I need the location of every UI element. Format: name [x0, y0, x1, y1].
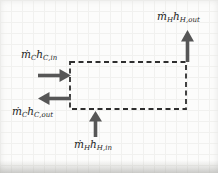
- h-symbol: h: [173, 10, 180, 22]
- cold-out-label: ṁChC,out: [12, 105, 53, 117]
- paper-edge-shadow: [0, 160, 218, 173]
- mdot-symbol: ṁ: [74, 138, 84, 150]
- cold-in-arrow-icon: [38, 68, 71, 83]
- mdot-symbol: ṁ: [21, 48, 31, 60]
- mdot-symbol: ṁ: [12, 105, 22, 117]
- hot-in-label: ṁHhH,in: [74, 138, 112, 150]
- hot-in-arrow-icon: [88, 111, 103, 138]
- cold-out-arrow-icon: [38, 91, 71, 106]
- hot-out-label: ṁHhH,out: [157, 10, 200, 22]
- heat-exchanger-diagram: ṁHhH,out ṁChC,in ṁChC,out ṁHhH,in: [0, 0, 218, 173]
- hot-out-arrow-icon: [180, 30, 195, 63]
- h-subscript: H,in: [97, 144, 112, 152]
- h-subscript: H,out: [180, 16, 200, 24]
- cold-in-label: ṁChC,in: [21, 48, 57, 60]
- h-subscript: C,out: [34, 111, 53, 119]
- control-volume-boundary: [68, 60, 189, 112]
- h-subscript: C,in: [43, 54, 57, 62]
- h-symbol: h: [90, 138, 97, 150]
- mdot-symbol: ṁ: [157, 10, 167, 22]
